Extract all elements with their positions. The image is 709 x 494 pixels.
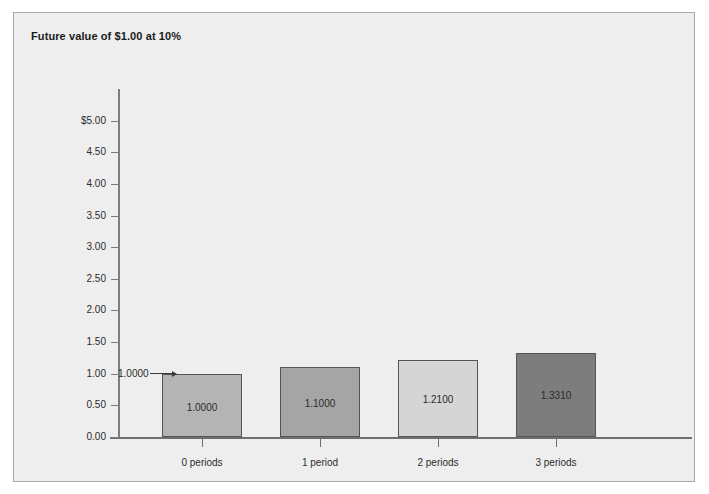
y-axis-tick-mark (111, 152, 119, 153)
bar-value-label: 1.3310 (517, 390, 595, 401)
y-axis-tick-label: 2.00 (54, 304, 106, 315)
y-axis-tick: 2.00 (14, 310, 119, 311)
y-axis-tick: 4.00 (14, 184, 119, 185)
y-axis-tick: 0.00 (14, 437, 119, 438)
y-axis-tick-mark (111, 279, 119, 280)
y-axis-tick-mark (111, 342, 119, 343)
bar: 1.2100 (398, 360, 478, 437)
y-axis-tick: 1.50 (14, 342, 119, 343)
y-axis-tick: 3.50 (14, 216, 119, 217)
bar: 1.0000 (162, 374, 242, 437)
bar: 1.1000 (280, 367, 360, 437)
chart-figure: Future value of $1.00 at 10% $5.004.504.… (0, 0, 709, 494)
y-axis-tick-label: 4.50 (54, 146, 106, 157)
y-axis-line (118, 89, 120, 439)
y-axis-tick-label: 1.50 (54, 336, 106, 347)
x-axis-tick-label: 0 periods (181, 457, 222, 468)
y-axis-tick-label: $5.00 (54, 115, 106, 126)
y-axis-tick-label: 0.00 (54, 431, 106, 442)
bar-value-label: 1.1000 (281, 398, 359, 409)
x-axis-tick-mark (202, 439, 203, 447)
bar-value-label: 1.2100 (399, 394, 477, 405)
y-axis-tick-mark (111, 374, 119, 375)
y-axis-tick: 0.50 (14, 405, 119, 406)
x-axis-tick-mark (556, 439, 557, 447)
x-axis-tick-mark (438, 439, 439, 447)
annotation-label: 1.0000 (118, 368, 149, 380)
chart-panel: Future value of $1.00 at 10% $5.004.504.… (13, 12, 695, 482)
x-axis-tick-label: 2 periods (417, 457, 458, 468)
y-axis-tick-mark (111, 437, 119, 438)
y-axis-tick-label: 3.00 (54, 241, 106, 252)
bar-value-label: 1.0000 (163, 402, 241, 413)
y-axis-tick-label: 3.50 (54, 210, 106, 221)
y-axis-tick: 1.00 (14, 374, 119, 375)
x-axis-tick-label: 3 periods (535, 457, 576, 468)
y-axis-tick: 3.00 (14, 247, 119, 248)
x-axis-tick-label: 1 period (302, 457, 338, 468)
y-axis-tick-mark (111, 184, 119, 185)
y-axis-tick-mark (111, 405, 119, 406)
y-axis-tick-mark (111, 216, 119, 217)
y-axis-tick-mark (111, 121, 119, 122)
y-axis-tick: 4.50 (14, 152, 119, 153)
y-axis-tick-mark (111, 310, 119, 311)
x-axis-line (110, 437, 692, 439)
y-axis-tick-label: 4.00 (54, 178, 106, 189)
bar: 1.3310 (516, 353, 596, 437)
y-axis-tick: 2.50 (14, 279, 119, 280)
y-axis-tick-label: 1.00 (54, 368, 106, 379)
y-axis-tick-label: 2.50 (54, 273, 106, 284)
y-axis-tick: $5.00 (14, 121, 119, 122)
x-axis-tick-mark (320, 439, 321, 447)
y-axis-tick-label: 0.50 (54, 399, 106, 410)
plot-area: $5.004.504.003.503.002.502.001.501.000.5… (14, 13, 696, 483)
y-axis-tick-mark (111, 247, 119, 248)
